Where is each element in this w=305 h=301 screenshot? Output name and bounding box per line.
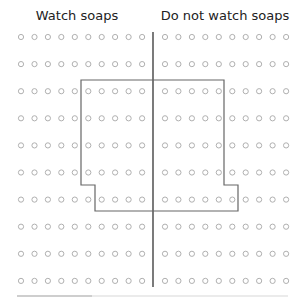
individual-not-watch-marker <box>189 62 194 67</box>
individual-watch-marker <box>126 251 131 256</box>
individual-not-watch-marker <box>176 224 181 229</box>
individual-not-watch-marker <box>203 251 208 256</box>
individual-not-watch-marker <box>284 170 289 175</box>
individual-not-watch-marker <box>176 143 181 148</box>
individual-watch-marker <box>126 116 131 121</box>
individual-watch-marker <box>32 34 37 39</box>
individual-watch-marker <box>18 278 23 283</box>
individual-not-watch-marker <box>243 116 248 121</box>
individual-not-watch-marker <box>176 170 181 175</box>
individual-watch-marker <box>59 62 64 67</box>
individual-not-watch-marker <box>230 278 235 283</box>
individual-not-watch-marker <box>270 89 275 94</box>
individual-watch-marker <box>32 278 37 283</box>
individual-not-watch-marker <box>189 278 194 283</box>
individual-not-watch-marker <box>189 170 194 175</box>
individual-watch-marker <box>140 251 145 256</box>
individual-not-watch-marker <box>216 197 221 202</box>
individual-not-watch-marker <box>270 116 275 121</box>
individual-watch-marker <box>72 197 77 202</box>
individual-watch-marker <box>86 143 91 148</box>
individual-not-watch-marker <box>284 278 289 283</box>
individual-not-watch-marker <box>189 251 194 256</box>
individual-not-watch-marker <box>243 224 248 229</box>
individual-not-watch-marker <box>257 170 262 175</box>
individual-watch-marker <box>32 170 37 175</box>
individual-watch-marker <box>113 34 118 39</box>
individual-not-watch-marker <box>162 197 167 202</box>
individual-not-watch-marker <box>176 251 181 256</box>
individual-not-watch-marker <box>270 62 275 67</box>
individual-not-watch-marker <box>203 197 208 202</box>
individual-not-watch-marker <box>243 278 248 283</box>
individual-not-watch-marker <box>284 34 289 39</box>
individual-watch-marker <box>59 278 64 283</box>
individual-not-watch-marker <box>257 89 262 94</box>
individual-watch-marker <box>86 197 91 202</box>
individual-not-watch-marker <box>176 197 181 202</box>
individual-not-watch-marker <box>216 143 221 148</box>
individual-not-watch-marker <box>162 143 167 148</box>
individual-watch-marker <box>72 224 77 229</box>
individual-watch-marker <box>86 170 91 175</box>
individual-watch-marker <box>113 170 118 175</box>
individual-not-watch-marker <box>284 251 289 256</box>
individual-watch-marker <box>45 170 50 175</box>
individual-watch-marker <box>113 89 118 94</box>
individual-watch-marker <box>18 34 23 39</box>
individual-watch-marker <box>99 251 104 256</box>
individual-watch-marker <box>99 197 104 202</box>
individual-watch-marker <box>126 224 131 229</box>
individual-watch-marker <box>18 251 23 256</box>
individual-not-watch-marker <box>257 197 262 202</box>
individual-not-watch-marker <box>257 116 262 121</box>
individual-watch-marker <box>18 224 23 229</box>
individual-watch-marker <box>32 62 37 67</box>
individual-watch-marker <box>45 116 50 121</box>
individual-not-watch-marker <box>230 197 235 202</box>
individual-not-watch-marker <box>230 224 235 229</box>
individual-watch-marker <box>113 62 118 67</box>
individual-watch-marker <box>113 197 118 202</box>
individual-watch-marker <box>18 89 23 94</box>
individual-watch-marker <box>113 251 118 256</box>
individual-not-watch-marker <box>243 251 248 256</box>
individual-watch-marker <box>99 89 104 94</box>
individual-watch-marker <box>126 62 131 67</box>
individual-not-watch-marker <box>162 278 167 283</box>
individual-watch-marker <box>45 251 50 256</box>
individual-not-watch-marker <box>284 89 289 94</box>
population-grid-diagram <box>0 0 305 301</box>
individual-watch-marker <box>59 251 64 256</box>
individual-not-watch-marker <box>230 116 235 121</box>
individual-not-watch-marker <box>257 34 262 39</box>
individual-not-watch-marker <box>216 34 221 39</box>
individual-not-watch-marker <box>162 116 167 121</box>
individual-not-watch-marker <box>176 89 181 94</box>
individual-not-watch-marker <box>243 89 248 94</box>
individual-not-watch-marker <box>216 278 221 283</box>
individual-watch-marker <box>113 224 118 229</box>
individual-watch-marker <box>18 197 23 202</box>
individual-not-watch-marker <box>216 251 221 256</box>
individual-watch-marker <box>140 116 145 121</box>
individual-watch-marker <box>45 143 50 148</box>
individual-watch-marker <box>72 170 77 175</box>
individual-not-watch-marker <box>162 251 167 256</box>
individual-not-watch-marker <box>162 170 167 175</box>
individual-not-watch-marker <box>203 34 208 39</box>
individual-not-watch-marker <box>203 89 208 94</box>
individual-not-watch-marker <box>284 62 289 67</box>
individual-watch-marker <box>99 143 104 148</box>
individual-not-watch-marker <box>230 62 235 67</box>
individual-not-watch-marker <box>284 116 289 121</box>
individual-watch-marker <box>18 170 23 175</box>
individual-watch-marker <box>126 89 131 94</box>
individual-watch-marker <box>126 278 131 283</box>
individual-not-watch-marker <box>230 170 235 175</box>
individual-not-watch-marker <box>216 62 221 67</box>
individual-watch-marker <box>126 143 131 148</box>
individual-watch-marker <box>72 62 77 67</box>
individual-watch-marker <box>45 278 50 283</box>
individual-not-watch-marker <box>203 116 208 121</box>
